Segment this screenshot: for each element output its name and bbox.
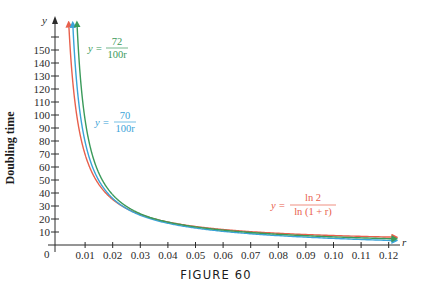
- origin-label: 0: [44, 248, 50, 260]
- label-numerator: 72: [112, 36, 123, 47]
- y-tick-label: 30: [39, 200, 51, 212]
- y-tick-label: 140: [34, 57, 51, 69]
- x-tick-label: 0.12: [379, 249, 398, 261]
- doubling-time-chart: y r 0 0.010.020.030.040.050.060.070.080.…: [0, 0, 428, 294]
- y-tick-label: 90: [39, 122, 51, 134]
- y-tick-label: 40: [39, 187, 51, 199]
- x-tick-label: 0.05: [186, 249, 206, 261]
- label-denominator: ln (1 + r): [294, 206, 332, 218]
- label-y-symbol: y =: [87, 43, 102, 54]
- x-tick-label: 0.09: [296, 249, 316, 261]
- label-denominator: 100r: [115, 123, 135, 134]
- y-axis-symbol: y: [41, 14, 47, 26]
- y-tick-label: 120: [34, 83, 51, 95]
- y-tick-label: 70: [39, 148, 51, 160]
- label-ln2-over-ln1pr: y = ln 2 ln (1 + r): [270, 192, 336, 218]
- label-numerator: ln 2: [305, 192, 321, 203]
- y-tick-label: 80: [39, 135, 51, 147]
- x-tick-label: 0.10: [324, 249, 344, 261]
- x-tick-label: 0.03: [131, 249, 151, 261]
- y-tick-label: 110: [34, 96, 51, 108]
- x-tick-label: 0.01: [75, 249, 94, 261]
- label-72-over-100r: y = 72 100r: [87, 36, 128, 60]
- label-70-over-100r: y = 70 100r: [94, 110, 136, 134]
- label-numerator: 70: [120, 110, 131, 121]
- y-tick-label: 100: [34, 109, 51, 121]
- y-axis-label: Doubling time: [3, 111, 17, 185]
- y-tick-label: 20: [39, 213, 51, 225]
- x-tick-label: 0.02: [103, 249, 122, 261]
- x-tick-label: 0.08: [269, 249, 289, 261]
- label-y-symbol: y =: [94, 117, 109, 128]
- x-tick-label: 0.11: [352, 249, 371, 261]
- x-tick-label: 0.04: [158, 249, 178, 261]
- y-tick-label: 10: [39, 226, 51, 238]
- y-axis-arrow-icon: [52, 16, 58, 24]
- y-tick-label: 130: [34, 70, 51, 82]
- x-tick-label: 0.07: [241, 249, 261, 261]
- y-tick-label: 150: [34, 44, 51, 56]
- x-tick-label: 0.06: [213, 249, 233, 261]
- x-axis-symbol: r: [402, 236, 407, 248]
- label-denominator: 100r: [107, 49, 127, 60]
- y-tick-label: 60: [39, 161, 51, 173]
- figure-caption: FIGURE 60: [180, 268, 252, 282]
- label-y-symbol: y =: [270, 200, 285, 211]
- y-tick-label: 50: [39, 174, 51, 186]
